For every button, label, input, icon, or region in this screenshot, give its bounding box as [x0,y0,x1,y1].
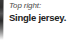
caption-kicker: Top right: [9,1,80,11]
caption-title: Single jersey. [9,12,80,23]
image-edge-strip [0,0,4,40]
caption-screenshot: Top right: Single jersey. [0,0,82,52]
caption-block: Top right: Single jersey. [9,0,80,23]
